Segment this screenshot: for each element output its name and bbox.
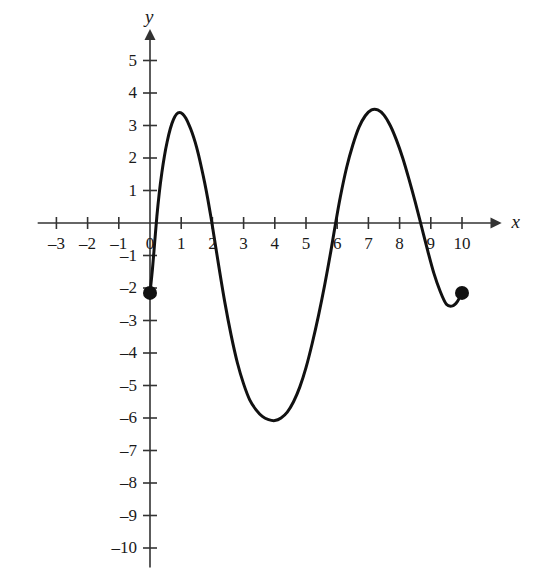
y-tick-label--2: –2 xyxy=(120,279,137,296)
y-tick-label--10: –10 xyxy=(112,539,138,556)
y-tick-label--8: –8 xyxy=(120,474,137,491)
x-tick-label-3: 3 xyxy=(239,235,248,252)
curve-path xyxy=(150,109,462,420)
right-endpoint-dot xyxy=(455,286,469,300)
x-tick-label--2: –2 xyxy=(79,235,96,252)
x-tick-label-4: 4 xyxy=(271,235,280,252)
x-tick-label-7: 7 xyxy=(364,235,373,252)
y-tick-label--7: –7 xyxy=(120,442,137,459)
y-tick-label-5: 5 xyxy=(129,52,138,69)
x-tick-label--3: –3 xyxy=(48,235,65,252)
x-tick-label-5: 5 xyxy=(302,235,311,252)
y-tick-label--1: –1 xyxy=(120,247,137,264)
y-tick-label--6: –6 xyxy=(120,409,137,426)
x-tick-label-0: 0 xyxy=(146,235,155,252)
y-tick-label-3: 3 xyxy=(129,117,138,134)
x-tick-label-8: 8 xyxy=(395,235,404,252)
y-tick-label--9: –9 xyxy=(120,507,137,524)
y-axis-label: y xyxy=(145,7,153,26)
left-endpoint-dot xyxy=(143,286,157,300)
x-axis-label: x xyxy=(511,212,519,231)
x-tick-label-1: 1 xyxy=(177,235,186,252)
y-tick-label-2: 2 xyxy=(129,149,138,166)
x-tick-label-6: 6 xyxy=(333,235,342,252)
y-tick-label-4: 4 xyxy=(129,84,138,101)
y-tick-label--4: –4 xyxy=(120,344,137,361)
y-tick-label--5: –5 xyxy=(120,377,137,394)
chart-canvas xyxy=(0,0,533,587)
x-tick-label-2: 2 xyxy=(208,235,217,252)
y-tick-label-1: 1 xyxy=(129,182,138,199)
y-tick-label--3: –3 xyxy=(120,312,137,329)
graph-figure: –3–2–101234567891054321–1–2–3–4–5–6–7–8–… xyxy=(0,0,533,587)
x-tick-label-9: 9 xyxy=(427,235,436,252)
x-tick-label-10: 10 xyxy=(454,235,471,252)
